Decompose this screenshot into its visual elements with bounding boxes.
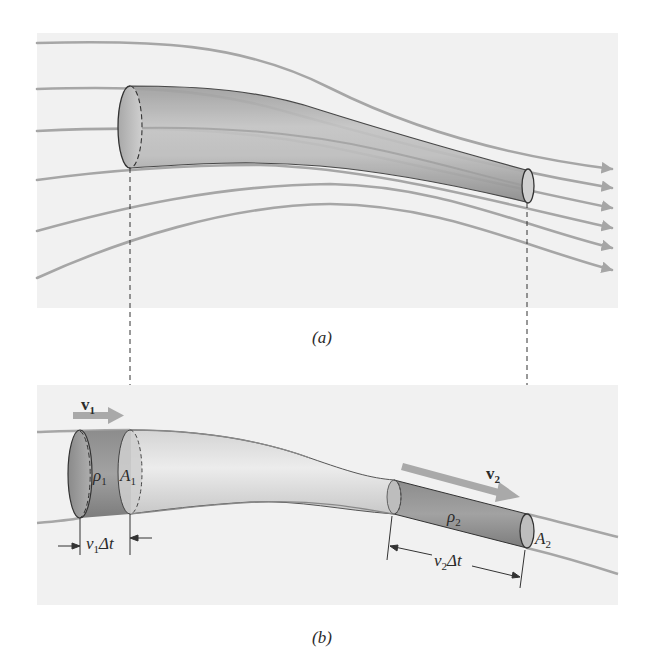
panel-a <box>37 33 618 308</box>
continuity-flow-tube-figure: (a) <box>0 0 646 672</box>
caption-a: (a) <box>312 328 332 347</box>
panel-b: v1 ρ1 A1 v1Δt v2 ρ2 A2 v2Δt <box>37 385 618 605</box>
cross-section-A2 <box>520 514 534 548</box>
caption-b: (b) <box>312 628 332 647</box>
fluid-element-1 <box>68 430 142 518</box>
label-v2dt: v2Δt <box>434 551 463 572</box>
cross-section-small <box>522 169 534 203</box>
label-v1dt: v1Δt <box>86 534 115 555</box>
